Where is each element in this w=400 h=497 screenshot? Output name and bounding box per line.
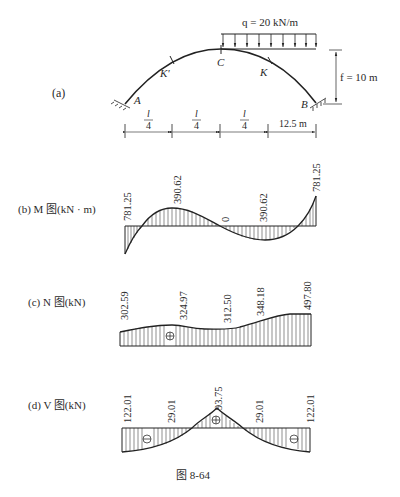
panel-b-label: (b) M 图(kN · m) [18,203,96,216]
span-last-label: 12.5 m [279,118,307,129]
point-b: B [301,98,308,110]
panel-d-shear-diagram: (d) V 图(kN) [28,386,316,452]
shear-value-k: 29.01 [254,399,265,423]
shear-value-kprime: 29.01 [166,399,177,423]
shear-value-a: 122.01 [122,394,133,423]
span-fraction-1: l 4 [144,108,153,131]
moment-value-kprime: 390.62 [172,175,183,204]
axial-value-a: 302.59 [119,291,130,320]
panel-c-label: (c) N 图(kN) [28,296,86,309]
span-dimensions: l 4 l 4 l 4 12.5 m [125,108,316,138]
moment-curve [125,196,316,254]
negative-sign-icon [143,435,151,443]
svg-text:l: l [243,108,246,119]
negative-sign-icon [290,435,298,443]
rise-label: f = 10 m [340,71,378,83]
axial-value-b: 497.80 [302,281,313,310]
panel-c-axial-diagram: (c) N 图(kN) [28,281,313,346]
svg-text:4: 4 [146,120,151,131]
axial-value-kprime: 324.97 [178,291,189,320]
point-k-prime: K' [159,67,170,79]
moment-value-a: 781.25 [122,192,133,221]
panel-a-label: (a) [52,86,65,100]
span-fraction-2: l 4 [192,108,201,131]
positive-sign-icon [166,332,174,340]
figure-8-64: (a) q = 20 kN/m K' [0,0,400,497]
svg-text:l: l [147,108,150,119]
axial-value-c: 312.50 [222,294,233,323]
moment-value-b: 781.25 [311,163,322,192]
panel-a-arch: (a) q = 20 kN/m K' [52,16,378,138]
axial-value-k: 348.18 [255,287,266,316]
span-fraction-3: l 4 [240,108,249,131]
point-a: A [133,94,141,106]
point-c: C [217,56,225,68]
svg-text:4: 4 [194,120,199,131]
figure-caption: 图 8-64 [176,469,210,481]
distributed-load: q = 20 kN/m [221,16,316,49]
shear-value-b: 122.01 [305,394,316,423]
positive-sign-icon [212,416,220,424]
rise-dimension: f = 10 m [323,50,378,104]
svg-text:l: l [195,108,198,119]
moment-value-k: 390.62 [258,193,269,222]
svg-text:4: 4 [242,120,247,131]
moment-value-c: 0 [220,217,231,222]
panel-d-label: (d) V 图(kN) [28,399,86,412]
point-k: K [259,66,268,78]
support-b-icon [310,98,326,111]
shear-value-c: 93.75 [213,386,224,410]
load-label: q = 20 kN/m [242,16,298,28]
axial-curve [120,314,311,332]
axial-hatching [124,314,308,346]
panel-b-moment-diagram: (b) M 图(kN · m) [18,163,322,254]
